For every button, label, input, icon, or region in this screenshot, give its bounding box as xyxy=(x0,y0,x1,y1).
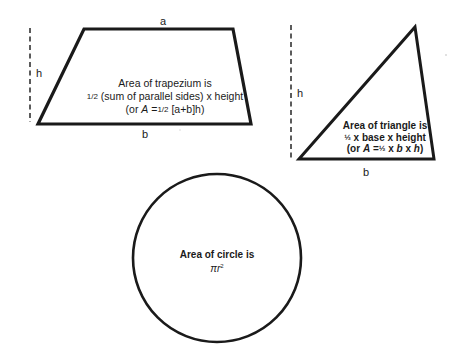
triangle-label-b: b xyxy=(363,166,369,178)
trapezium-caption-line2: 1/2 (sum of parallel sides) x height xyxy=(85,90,245,104)
triangle-caption-line1: Area of triangle is xyxy=(335,120,435,132)
half-fraction: 1/2 xyxy=(87,92,98,101)
text: (or xyxy=(347,143,363,154)
text: x xyxy=(403,143,414,154)
trapezium-label-h: h xyxy=(36,67,42,79)
trapezium-label-a: a xyxy=(160,15,166,27)
speck-mark xyxy=(445,54,447,56)
circle-caption-line1: Area of circle is xyxy=(167,249,267,261)
diagram-canvas xyxy=(0,0,459,362)
triangle-caption-line2: ½ x base x height xyxy=(335,132,435,144)
half-fraction: 1/2 xyxy=(157,105,168,114)
trapezium-caption-line2-text: (sum of parallel sides) x height xyxy=(98,90,243,102)
text: (or xyxy=(126,103,142,115)
trapezium-caption: Area of trapezium is 1/2 (sum of paralle… xyxy=(85,77,245,117)
text: x base x height xyxy=(351,132,426,143)
text: x xyxy=(385,143,396,154)
pi-symbol: π xyxy=(210,263,217,274)
text: ) xyxy=(420,143,423,154)
triangle-label-h: h xyxy=(297,87,303,99)
trapezium-caption-line3: (or A =1/2 [a+b]h) xyxy=(85,103,245,117)
exponent: 2 xyxy=(220,263,223,269)
circle-caption-line2: πr2 xyxy=(167,261,267,275)
trapezium-label-b: b xyxy=(142,128,148,140)
trapezium-caption-line1: Area of trapezium is xyxy=(85,77,245,90)
text: [a+b]h) xyxy=(169,103,205,115)
triangle-caption-line3: (or A =½ x b x h) xyxy=(335,143,435,155)
speck-mark xyxy=(179,129,180,130)
circle-caption: Area of circle is πr2 xyxy=(167,249,267,274)
half-fraction: ½ xyxy=(344,133,351,142)
text: = xyxy=(370,143,379,154)
triangle-caption: Area of triangle is ½ x base x height (o… xyxy=(335,120,435,155)
